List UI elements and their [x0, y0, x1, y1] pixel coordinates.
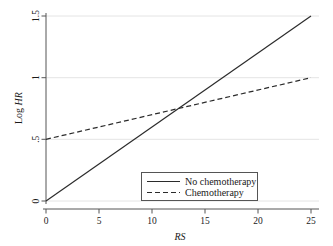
- x-tick-label-20: 20: [253, 216, 263, 226]
- y-axis-title: Log HR: [13, 92, 24, 124]
- legend-label-no-chemotherapy: No chemotherapy: [185, 176, 256, 187]
- y-tick-label-1: 1: [31, 75, 41, 80]
- x-tick-label-5: 5: [97, 216, 102, 226]
- x-tick-label-25: 25: [306, 216, 316, 226]
- y-tick-label-0: 0: [31, 198, 41, 203]
- y-axis-title-italic: HR: [13, 92, 24, 106]
- log-hr-vs-rs-line-chart: 1.5 1 .5 0 Log HR 0 5 10 15 20 25: [0, 0, 333, 246]
- x-tick-label-15: 15: [200, 216, 210, 226]
- y-tick-label-0-5: .5: [31, 135, 41, 142]
- x-tick-label-10: 10: [147, 216, 157, 226]
- x-tick-label-0: 0: [44, 216, 49, 226]
- x-axis-title: RS: [173, 231, 185, 242]
- chart-screenshot: 1.5 1 .5 0 Log HR 0 5 10 15 20 25: [0, 0, 333, 246]
- legend-label-chemotherapy: Chemotherapy: [185, 187, 244, 198]
- y-axis-title-prefix: Log: [13, 105, 24, 124]
- svg-text:Log HR: Log HR: [13, 92, 24, 124]
- legend: No chemotherapy Chemotherapy: [142, 173, 258, 201]
- y-tick-label-1-5: 1.5: [31, 10, 41, 22]
